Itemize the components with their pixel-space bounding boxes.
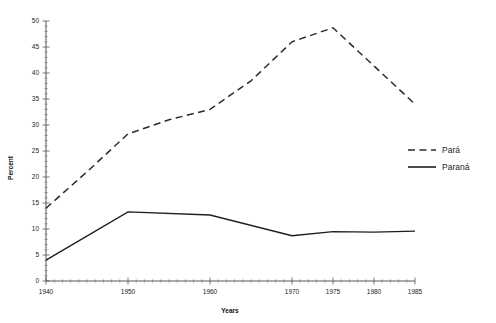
legend-label-par: Pará [442,145,460,155]
x-tick-label: 1960 [203,288,218,295]
legend-label-paran: Paraná [442,162,470,172]
x-axis: 1940195019601970197519801985 [39,278,423,296]
series-line-par [46,28,415,208]
y-tick-label: 20 [32,173,40,180]
x-tick-label: 1950 [121,288,136,295]
chart-container: 05101520253035404550 1940195019601970197… [0,0,496,323]
y-tick-label: 25 [32,147,40,154]
y-axis: 05101520253035404550 [32,17,50,284]
y-tick-label: 45 [32,43,40,50]
x-tick-label: 1940 [39,288,54,295]
x-axis-title: Years [221,307,239,314]
y-axis-title: Percent [7,155,14,180]
y-tick-label: 10 [32,225,40,232]
y-tick-label: 15 [32,199,40,206]
x-tick-label: 1970 [285,288,300,295]
chart-legend: ParáParaná [408,145,470,172]
y-tick-label: 35 [32,95,40,102]
y-tick-label: 50 [32,17,40,24]
x-tick-label: 1980 [367,288,382,295]
x-tick-label: 1975 [326,288,341,295]
data-series-group [46,28,415,260]
y-tick-label: 5 [35,251,39,258]
y-tick-label: 0 [35,277,39,284]
line-chart-plot: 05101520253035404550 1940195019601970197… [0,0,496,323]
x-tick-label: 1985 [408,288,423,295]
y-tick-label: 30 [32,121,40,128]
y-tick-label: 40 [32,69,40,76]
series-line-paran [46,212,415,260]
